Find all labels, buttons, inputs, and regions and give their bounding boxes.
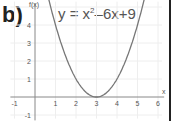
svg-text:4: 4: [115, 100, 119, 107]
svg-text:1: 1: [54, 100, 58, 107]
svg-text:-1: -1: [11, 100, 17, 107]
svg-text:-1: -1: [25, 112, 31, 119]
svg-text:3: 3: [27, 40, 31, 47]
svg-text:2: 2: [27, 58, 31, 65]
svg-text:5: 5: [136, 100, 140, 107]
svg-text:1: 1: [27, 76, 31, 83]
right-border: [169, 0, 171, 121]
svg-text:4: 4: [27, 22, 31, 29]
svg-text:3: 3: [95, 100, 99, 107]
svg-text:2: 2: [74, 100, 78, 107]
parabola-chart: -1123456-11234f(x)x: [0, 0, 171, 121]
svg-text:6: 6: [156, 100, 160, 107]
svg-text:x: x: [162, 88, 166, 95]
svg-text:f(x): f(x): [29, 1, 39, 9]
